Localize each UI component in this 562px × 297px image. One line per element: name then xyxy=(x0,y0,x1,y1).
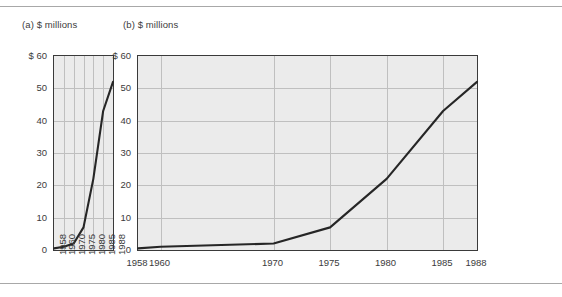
y-axis-tick-label: 0 xyxy=(126,244,131,255)
panel-a-y-axis: $ 6050403020100 xyxy=(18,55,51,251)
y-axis-tick-label: 10 xyxy=(120,211,131,222)
x-axis-tick-label: 1980 xyxy=(375,257,396,268)
y-axis-tick-label: 10 xyxy=(36,211,47,222)
y-axis-tick-label: 50 xyxy=(120,82,131,93)
y-axis-tick-label: 30 xyxy=(120,147,131,158)
y-axis-tick-label: 20 xyxy=(36,179,47,190)
x-axis-tick-label: 1988 xyxy=(465,257,486,268)
y-axis-tick-label: 50 xyxy=(36,82,47,93)
panel-b-x-axis: 1958196019701975198019851988 xyxy=(137,255,478,275)
figure-container: (a) $ millions (b) $ millions $ 60504030… xyxy=(0,7,562,283)
panel-b-series-line xyxy=(138,56,479,252)
panel-a-x-axis: 1958196019701975198019851988 xyxy=(53,253,114,297)
panel-b-plot-area xyxy=(137,55,478,251)
x-axis-tick-label: 1975 xyxy=(319,257,340,268)
x-axis-tick-label: 1958 xyxy=(126,257,147,268)
y-axis-tick-label: 20 xyxy=(120,179,131,190)
panel-b-y-axis: $ 6050403020100 xyxy=(102,55,135,251)
panel-b-title: (b) $ millions xyxy=(123,19,178,30)
y-axis-tick-label: 0 xyxy=(42,244,47,255)
y-axis-tick-label: 40 xyxy=(120,114,131,125)
y-axis-tick-label: $ 60 xyxy=(29,50,48,61)
x-axis-tick-label: 1960 xyxy=(149,257,170,268)
y-axis-tick-label: 30 xyxy=(36,147,47,158)
panel-a-title: (a) $ millions xyxy=(22,19,77,30)
y-axis-tick-label: $ 60 xyxy=(113,50,132,61)
x-axis-tick-label: 1970 xyxy=(262,257,283,268)
y-axis-tick-label: 40 xyxy=(36,114,47,125)
x-axis-tick-label: 1985 xyxy=(432,257,453,268)
